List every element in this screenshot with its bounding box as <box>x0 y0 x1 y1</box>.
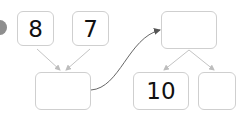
empty-top-right-box[interactable] <box>161 11 217 49</box>
number-box-8: 8 <box>17 11 54 46</box>
empty-sum-box[interactable] <box>35 72 91 110</box>
number-box-10: 10 <box>133 72 189 110</box>
arrow-7-to-sum <box>66 49 90 70</box>
arrow-to-right <box>189 50 214 70</box>
number-box-7: 7 <box>72 11 109 46</box>
arrow-to-10 <box>164 50 189 70</box>
arrow-8-to-sum <box>37 49 60 70</box>
empty-small-box[interactable] <box>198 72 236 110</box>
